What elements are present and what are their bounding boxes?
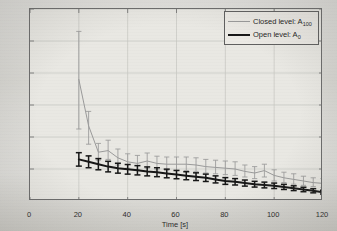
chart-legend: Closed level: A100 Open level: A0 <box>224 11 319 45</box>
plot-area: 024681012020406080100120 Time [s] Closed… <box>29 8 322 200</box>
legend-line-open-level <box>228 34 250 36</box>
legend-item-open-level: Open level: A0 <box>228 28 315 41</box>
x-axis-label: Time [s] <box>162 220 188 229</box>
legend-line-closed-level <box>228 21 250 22</box>
x-tick-label: 0 <box>27 210 31 219</box>
x-tick-label: 120 <box>316 210 329 219</box>
figure-chart: Relative error in estimation [%] 0246810… <box>0 0 337 231</box>
x-tick-label: 80 <box>220 210 228 219</box>
legend-label-closed-level: Closed level: A100 <box>253 17 312 26</box>
x-tick-label: 40 <box>122 210 130 219</box>
legend-item-closed-level: Closed level: A100 <box>228 15 315 28</box>
x-tick-label: 100 <box>267 210 280 219</box>
series-open-level <box>76 153 322 194</box>
x-tick-label: 60 <box>171 210 179 219</box>
series-closed-level <box>76 31 322 187</box>
legend-label-open-level: Open level: A0 <box>253 30 301 39</box>
x-tick-label: 20 <box>74 210 82 219</box>
